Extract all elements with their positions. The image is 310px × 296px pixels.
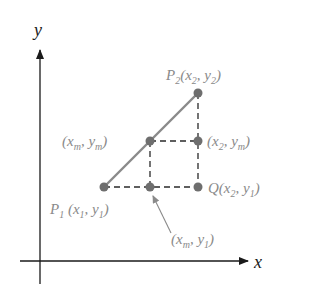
point-midpoint <box>146 137 155 146</box>
label-p2: P2(x2, y2) <box>165 67 221 86</box>
label-q: Q(x2, y1) <box>208 180 260 199</box>
midpoint-diagram: y x P2(x2, y2) (xm, ym) (x2, ym) Q(x2, y… <box>0 0 310 296</box>
point-x2-ym <box>194 137 203 146</box>
point-xm-y1 <box>146 183 155 192</box>
label-xm-y1: (xm, y1) <box>171 231 214 250</box>
diagram-canvas: y x P2(x2, y2) (xm, ym) (x2, ym) Q(x2, y… <box>0 0 310 296</box>
label-midpoint: (xm, ym) <box>62 133 107 152</box>
label-x2-ym: (x2, ym) <box>207 133 250 152</box>
y-axis-label: y <box>32 20 42 40</box>
point-p2 <box>194 89 203 98</box>
point-q <box>194 183 203 192</box>
point-p1 <box>100 183 109 192</box>
x-axis-label: x <box>253 252 262 272</box>
pointer-arrow <box>153 196 171 233</box>
label-p1: P1 (x1, y1) <box>49 201 109 220</box>
